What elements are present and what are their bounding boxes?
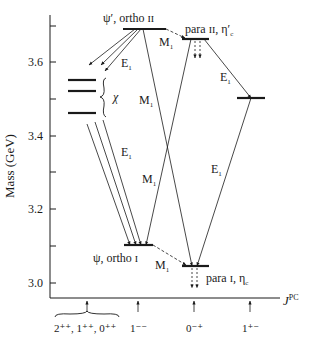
- label-m1-psiprime-para1: M1: [139, 94, 153, 111]
- label-para-2: para ɪɪ, η′c: [185, 23, 233, 40]
- label-e1-para2-1pm: E1: [220, 71, 231, 88]
- x-axis-label: JPC: [283, 292, 299, 307]
- label-e1-psiprime-chi: E1: [121, 57, 132, 74]
- y-tick-3.4: 3.4: [28, 130, 43, 142]
- chi-brace: [100, 78, 106, 117]
- label-e1-chi-psi: E1: [121, 146, 132, 163]
- label-m1-psiprime-para2: M1: [159, 36, 173, 53]
- y-tick-3.2: 3.2: [28, 203, 43, 215]
- x-category-1pm: 1⁺⁻: [242, 322, 259, 334]
- label-m1-para2-psi: M1: [142, 173, 156, 190]
- y-axis-label: Mass (GeV): [4, 134, 16, 198]
- label-para-1: para ɪ, ηc: [206, 272, 248, 289]
- x-category-chi: 2⁺⁺, 1⁺⁺, 0⁺⁺: [54, 322, 116, 334]
- x-category-1mm: 1⁻⁻: [130, 322, 147, 334]
- label-m1-psi-para1: M1: [155, 259, 169, 276]
- y-tick-3.6: 3.6: [28, 56, 43, 68]
- x-category-0mp: 0⁻⁺: [186, 322, 203, 334]
- label-psi: ψ, ortho ɪ: [93, 252, 138, 264]
- label-psi-prime: ψ′, ortho ɪɪ: [103, 12, 154, 24]
- label-chi: χ: [113, 91, 118, 103]
- y-tick-3.0: 3.0: [28, 277, 43, 289]
- label-e1-1pm-para1: E1: [211, 163, 222, 180]
- charmonium-diagram: [0, 0, 313, 341]
